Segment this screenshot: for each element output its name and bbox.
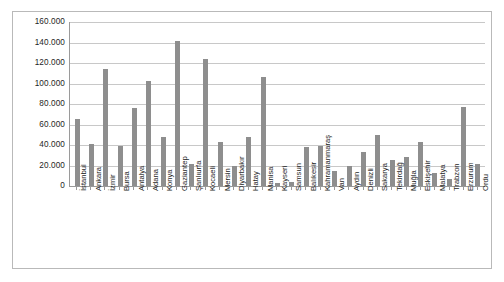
x-axis-category-label: Trabzon <box>453 163 461 191</box>
y-axis-tick-label: 20.000 <box>13 161 65 169</box>
x-axis-category-label: Sakarya <box>382 163 390 191</box>
tick-mark <box>334 186 335 190</box>
bar <box>361 152 366 186</box>
tick-mark <box>449 186 450 190</box>
x-axis-category-label: Şanlıurfa <box>195 161 203 191</box>
x-axis-label-slot: Malatya <box>428 191 442 263</box>
bar <box>447 179 452 186</box>
tick-mark <box>233 186 234 190</box>
tick-mark <box>133 186 134 190</box>
x-axis-category-label: Hatay <box>252 171 260 191</box>
y-axis-tick-label: 140.000 <box>13 38 65 46</box>
x-axis-label-slot: Hatay <box>241 191 255 263</box>
x-axis-label-slot: Ankara <box>83 191 97 263</box>
x-axis-category-label: Erzurum <box>468 162 476 191</box>
bar <box>261 77 266 186</box>
bar <box>390 160 395 186</box>
tick-mark <box>104 186 105 190</box>
x-axis-category-label: Bursa <box>123 171 131 191</box>
x-axis-label-slot: Erzurum <box>456 191 470 263</box>
bar <box>103 69 108 186</box>
x-axis-label-slot: Tekirdağ <box>385 191 399 263</box>
tick-mark <box>363 186 364 190</box>
x-axis-category-label: Balıkesir <box>310 162 318 191</box>
x-axis-category-label: Kocaeli <box>209 166 217 191</box>
bar <box>475 164 480 186</box>
x-axis-label-slot: Samsun <box>284 191 298 263</box>
tick-mark <box>90 186 91 190</box>
tick-mark <box>434 186 435 190</box>
y-axis-tick-label: 0 <box>13 182 65 190</box>
y-axis-tick-label: 120.000 <box>13 59 65 67</box>
x-axis-category-label: Diyarbakır <box>238 156 246 191</box>
x-axis-category-label: Konya <box>166 169 174 191</box>
tick-mark <box>119 186 120 190</box>
x-axis-label-slot: Konya <box>155 191 169 263</box>
x-axis-category-label: İstanbul <box>80 164 88 191</box>
tick-mark <box>320 186 321 190</box>
y-axis-tick-label: 40.000 <box>13 141 65 149</box>
x-axis-label-slot: Muğla <box>399 191 413 263</box>
y-axis: 160.000140.000120.000100.00080.00060.000… <box>13 12 69 268</box>
x-axis-category-label: Antalya <box>138 166 146 191</box>
x-axis-label-slot: Şanlıurfa <box>184 191 198 263</box>
tick-mark <box>348 186 349 190</box>
tick-mark <box>176 186 177 190</box>
x-axis-label-slot: Sakarya <box>370 191 384 263</box>
bar-slot <box>270 22 284 186</box>
y-axis-tick-label: 60.000 <box>13 120 65 128</box>
x-axis-category-label: Eskişehir <box>425 160 433 191</box>
tick-mark <box>248 186 249 190</box>
tick-mark <box>420 186 421 190</box>
bar <box>404 157 409 186</box>
x-axis-label-slot: Mersin <box>212 191 226 263</box>
x-axis-category-label: Denizli <box>367 168 375 191</box>
bar-slot <box>113 22 127 186</box>
bar-slot <box>127 22 141 186</box>
x-axis-label-slot: Antalya <box>126 191 140 263</box>
x-axis-category-label: Tekirdağ <box>396 162 404 191</box>
bar-slot <box>213 22 227 186</box>
x-axis-label-slot: Aydın <box>342 191 356 263</box>
bar <box>175 41 180 186</box>
bar-slot <box>70 22 84 186</box>
chart-container: 160.000140.000120.000100.00080.00060.000… <box>12 11 492 269</box>
x-axis-label-slot: Ordu <box>471 191 485 263</box>
y-axis-tick-label: 100.000 <box>13 79 65 87</box>
x-axis-category-label: Mersin <box>224 168 232 191</box>
x-axis-category-label: Aydın <box>353 172 361 191</box>
x-axis-label-slot: Bursa <box>112 191 126 263</box>
x-axis-label-slot: İstanbul <box>69 191 83 263</box>
x-axis-category-label: Gaziantep <box>181 156 189 191</box>
x-axis-category-label: Adana <box>152 169 160 191</box>
x-axis-label-slot: Van <box>327 191 341 263</box>
bar-slot <box>285 22 299 186</box>
x-axis-label-slot: Kocaeli <box>198 191 212 263</box>
bar-slot <box>371 22 385 186</box>
x-axis-category-label: Kayseri <box>281 166 289 191</box>
x-axis-category-label: Ankara <box>95 167 103 191</box>
bar-slot <box>442 22 456 186</box>
x-axis-label-slot: Denizli <box>356 191 370 263</box>
x-axis-label-slot: Gaziantep <box>169 191 183 263</box>
bar-slot <box>256 22 270 186</box>
x-axis-category-label: Samsun <box>296 163 304 191</box>
bar <box>218 142 223 186</box>
tick-mark <box>219 186 220 190</box>
x-axis-category-label: Kahramanmaraş <box>324 135 332 191</box>
tick-mark <box>162 186 163 190</box>
tick-mark <box>477 186 478 190</box>
tick-mark <box>205 186 206 190</box>
x-axis-label-slot: Balıkesir <box>299 191 313 263</box>
x-axis-label-slot: Trabzon <box>442 191 456 263</box>
x-axis-category-label: Van <box>339 178 347 191</box>
bar-slot <box>99 22 113 186</box>
bar-slot <box>356 22 370 186</box>
tick-mark <box>305 186 306 190</box>
tick-mark <box>147 186 148 190</box>
x-axis-category-label: Malatya <box>439 164 447 191</box>
y-axis-tick-label: 80.000 <box>13 100 65 108</box>
x-axis-category-label: İzmir <box>109 175 117 191</box>
tick-mark <box>276 186 277 190</box>
tick-mark <box>291 186 292 190</box>
